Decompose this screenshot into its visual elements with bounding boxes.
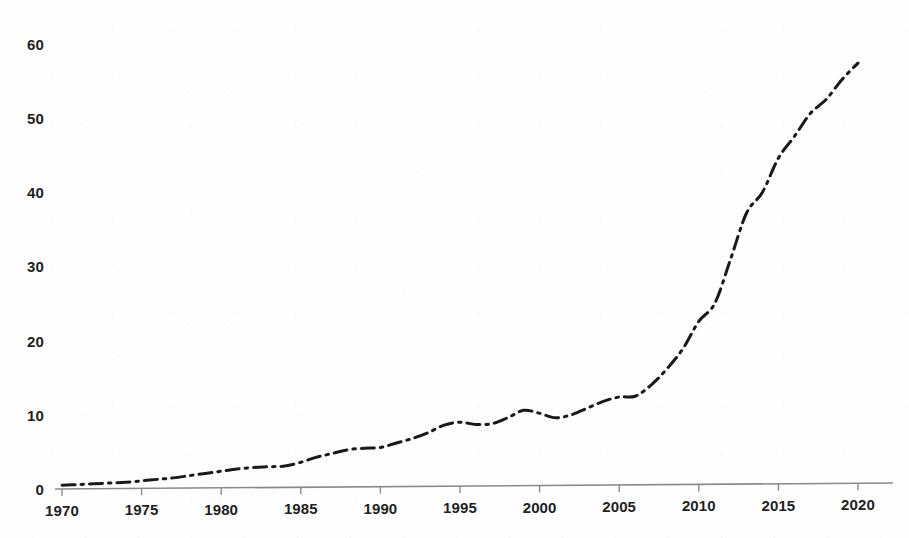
x-axis-line	[55, 483, 893, 489]
y-tick-label-10: 10	[0, 407, 44, 422]
x-tick-label-1980: 1980	[204, 502, 238, 517]
series-line-value	[62, 63, 858, 485]
x-tick-label-2020: 2020	[841, 497, 875, 512]
x-tick-label-1975: 1975	[125, 502, 159, 517]
x-axis-ticks	[62, 483, 858, 496]
x-tick-label-1990: 1990	[364, 501, 398, 516]
x-tick-label-2010: 2010	[682, 498, 716, 513]
y-tick-label-60: 60	[0, 36, 44, 51]
y-tick-label-50: 50	[0, 111, 44, 126]
line-chart: 0102030405060 19701975198019851990199520…	[0, 0, 909, 538]
y-tick-label-30: 30	[0, 259, 44, 274]
x-tick-label-2000: 2000	[523, 500, 557, 515]
data-series-group	[62, 63, 858, 485]
y-tick-label-40: 40	[0, 185, 44, 200]
x-tick-label-2005: 2005	[602, 499, 636, 514]
x-tick-label-1985: 1985	[284, 501, 318, 516]
x-tick-label-1995: 1995	[443, 500, 477, 515]
x-tick-label-1970: 1970	[45, 503, 79, 518]
x-tick-label-2015: 2015	[762, 498, 796, 513]
chart-plot-area	[0, 0, 909, 538]
x-axis-baseline	[55, 483, 893, 489]
y-tick-label-0: 0	[0, 482, 44, 497]
y-tick-label-20: 20	[0, 333, 44, 348]
